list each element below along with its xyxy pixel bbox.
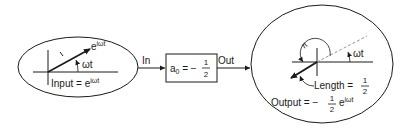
input-angle-label: ωt: [82, 59, 93, 70]
system-coefficient-label: a0 = −: [170, 63, 197, 75]
phasor-diagram: eiωt ωt Input = eiωt In a0 = − 1 2 Out ω…: [0, 0, 406, 130]
output-caption-exponential: eiωt: [339, 96, 354, 108]
output-length-pointer: [300, 76, 314, 86]
output-angle-label: ωt: [353, 48, 364, 59]
output-length-numerator: 1: [363, 76, 368, 85]
input-unit-tick: [60, 52, 63, 56]
system-frac-denominator: 2: [204, 70, 209, 79]
output-length-denominator: 2: [363, 87, 368, 96]
output-caption-numerator: 1: [330, 94, 335, 103]
output-panel: ωt π Length = 1 2 Output = − 1 2 eiωt: [251, 5, 393, 123]
system-frac-numerator: 1: [204, 58, 209, 67]
input-panel: eiωt ωt Input = eiωt: [18, 37, 138, 97]
output-caption: Output = −: [271, 97, 318, 108]
output-connector: Out: [217, 55, 250, 68]
input-caption: Input = eiωt: [51, 77, 99, 89]
input-vector-label: eiωt: [91, 40, 106, 52]
input-angle-arc: [76, 60, 78, 72]
output-connector-label: Out: [218, 55, 234, 66]
output-angle-arc: [348, 52, 350, 62]
system-block: a0 = − 1 2: [166, 54, 217, 82]
output-phasor-arrow: [291, 62, 317, 78]
input-connector: In: [138, 55, 165, 68]
input-connector-label: In: [142, 55, 150, 66]
output-caption-denominator: 2: [330, 105, 335, 114]
output-length-label: Length =: [314, 80, 353, 91]
